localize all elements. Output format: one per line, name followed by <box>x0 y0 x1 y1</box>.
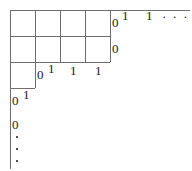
third-row-cell-one-b-label: 1 <box>95 64 102 77</box>
second-row-edge-zero-label: 0 <box>112 42 119 55</box>
staircase-lattice-figure: 0 1 1 · · · 0 0 1 1 1 1 0 1 0 <box>0 0 192 171</box>
ellipsis-dot <box>16 136 18 138</box>
fourth-row-corner-one-label: 1 <box>23 88 30 101</box>
third-row-edge-zero-label: 0 <box>37 68 44 81</box>
top-row-edge-zero-label: 0 <box>112 16 119 29</box>
top-row-ellipsis: · · · <box>162 10 189 23</box>
ellipsis-dot <box>16 160 18 162</box>
third-row-cell-one-a-label: 1 <box>70 64 77 77</box>
bottom-edge-zero-label: 0 <box>12 118 19 131</box>
top-row-second-one-label: 1 <box>146 9 153 22</box>
ellipsis-dot <box>16 148 18 150</box>
fourth-row-edge-zero-label: 0 <box>12 94 19 107</box>
figure-line-art <box>0 0 192 171</box>
third-row-corner-one-label: 1 <box>48 62 55 75</box>
top-row-first-one-label: 1 <box>122 9 129 22</box>
bottom-vertical-ellipsis <box>14 136 20 162</box>
